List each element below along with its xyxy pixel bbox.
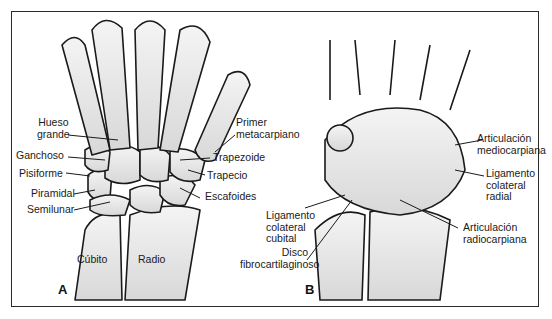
label-trapezoide: Trapezoide bbox=[213, 152, 265, 164]
panel-letter-a: A bbox=[58, 282, 67, 297]
label-primer-metacarpiano: Primer metacarpiano bbox=[236, 117, 300, 140]
label-ganchoso: Ganchoso bbox=[16, 150, 64, 162]
label-radio: Radio bbox=[138, 254, 165, 266]
label-line: fibrocartilaginoso bbox=[240, 259, 308, 271]
label-escafoides: Escafoides bbox=[205, 191, 256, 203]
label-line: grande bbox=[37, 129, 70, 141]
label-line: cubital bbox=[266, 233, 315, 245]
label-disco-fibrocartilaginoso: Disco fibrocartilaginoso bbox=[240, 247, 308, 270]
label-hueso-grande: Hueso grande bbox=[37, 117, 70, 140]
label-articulacion-radiocarpiana: Articulación radiocarpiana bbox=[463, 222, 527, 245]
label-line: metacarpiano bbox=[236, 129, 300, 141]
label-ligamento-colateral-radial: Ligamento colateral radial bbox=[486, 168, 535, 203]
label-line: mediocarpiana bbox=[477, 145, 546, 157]
label-line: Disco bbox=[240, 247, 308, 259]
label-trapecio: Trapecio bbox=[207, 170, 247, 182]
panel-b-bones bbox=[315, 40, 470, 300]
wrist-anatomy-illustration bbox=[0, 0, 552, 319]
label-line: Ligamento bbox=[266, 210, 315, 222]
label-pisiforme: Pisiforme bbox=[19, 168, 63, 180]
label-piramidal: Piramidal bbox=[31, 188, 75, 200]
label-articulacion-mediocarpiana: Articulación mediocarpiana bbox=[477, 133, 546, 156]
label-line: radial bbox=[486, 191, 535, 203]
label-line: Ligamento bbox=[486, 168, 535, 180]
label-line: Articulación bbox=[477, 133, 546, 145]
label-semilunar: Semilunar bbox=[27, 204, 74, 216]
label-line: Primer bbox=[236, 117, 300, 129]
panel-letter-b: B bbox=[305, 282, 314, 297]
label-cubito: Cúbito bbox=[77, 254, 107, 266]
label-ligamento-colateral-cubital: Ligamento colateral cubital bbox=[266, 210, 315, 245]
label-line: Hueso bbox=[37, 117, 70, 129]
label-line: Articulación bbox=[463, 222, 527, 234]
label-line: radiocarpiana bbox=[463, 234, 527, 246]
